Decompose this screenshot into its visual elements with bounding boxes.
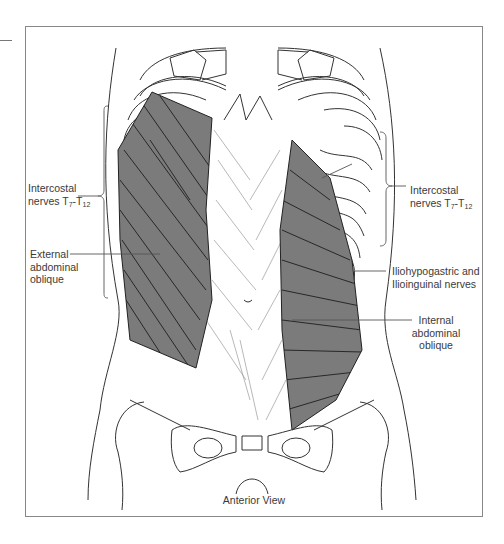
- label-external-abdominal-oblique: External abdominal oblique: [30, 248, 78, 286]
- external-oblique-muscle: [118, 92, 212, 368]
- label-line: Intercostal: [28, 182, 90, 195]
- label-iliohypogastric-ilioinguinal-nerves: Iliohypogastric and Ilioinguinal nerves: [392, 265, 480, 290]
- label-line: nerves T7-T12: [28, 195, 90, 208]
- label-intercostal-nerves-right: Intercostal nerves T7-T12: [410, 184, 472, 209]
- internal-oblique-muscle: [280, 140, 362, 430]
- view-caption: Anterior View: [200, 494, 308, 507]
- umbilicus: [244, 300, 252, 302]
- label-intercostal-nerves-left: Intercostal nerves T7-T12: [28, 182, 90, 207]
- label-internal-abdominal-oblique: Internal abdominal oblique: [396, 314, 476, 352]
- aponeurosis-fibers: [206, 130, 286, 420]
